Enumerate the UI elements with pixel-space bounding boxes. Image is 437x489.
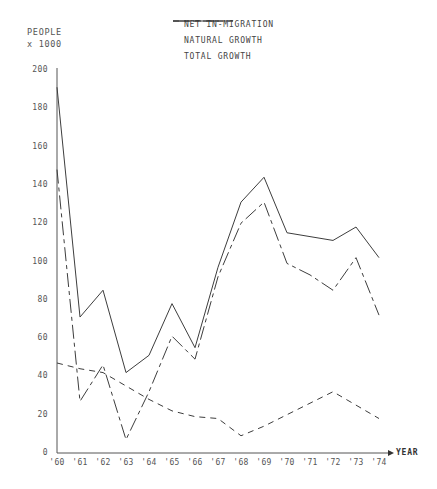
y-tick-label: 40 bbox=[22, 371, 48, 380]
y-tick-label: 140 bbox=[22, 180, 48, 189]
y-tick-label: 20 bbox=[22, 410, 48, 419]
y-tick-label: 100 bbox=[22, 257, 48, 266]
y-tick-label: 80 bbox=[22, 295, 48, 304]
x-tick-label: '74 bbox=[366, 458, 392, 467]
series-line-natural_growth bbox=[57, 363, 379, 436]
axes bbox=[57, 68, 394, 456]
y-tick-label: 200 bbox=[22, 65, 48, 74]
plot-area bbox=[0, 0, 437, 489]
data-series-group bbox=[57, 87, 379, 439]
y-tick-label: 60 bbox=[22, 333, 48, 342]
line-chart: PEOPLE x 1000 NET IN-MIGRATION NATURAL G… bbox=[0, 0, 437, 489]
y-tick-label: 0 bbox=[22, 448, 48, 457]
x-axis-title: YEAR bbox=[396, 448, 418, 457]
y-tick-label: 180 bbox=[22, 103, 48, 112]
y-tick-label: 160 bbox=[22, 142, 48, 151]
x-axis-arrow-icon bbox=[388, 450, 394, 456]
series-line-total_growth bbox=[57, 87, 379, 372]
y-tick-label: 120 bbox=[22, 218, 48, 227]
series-line-net_in_migration bbox=[57, 170, 379, 440]
